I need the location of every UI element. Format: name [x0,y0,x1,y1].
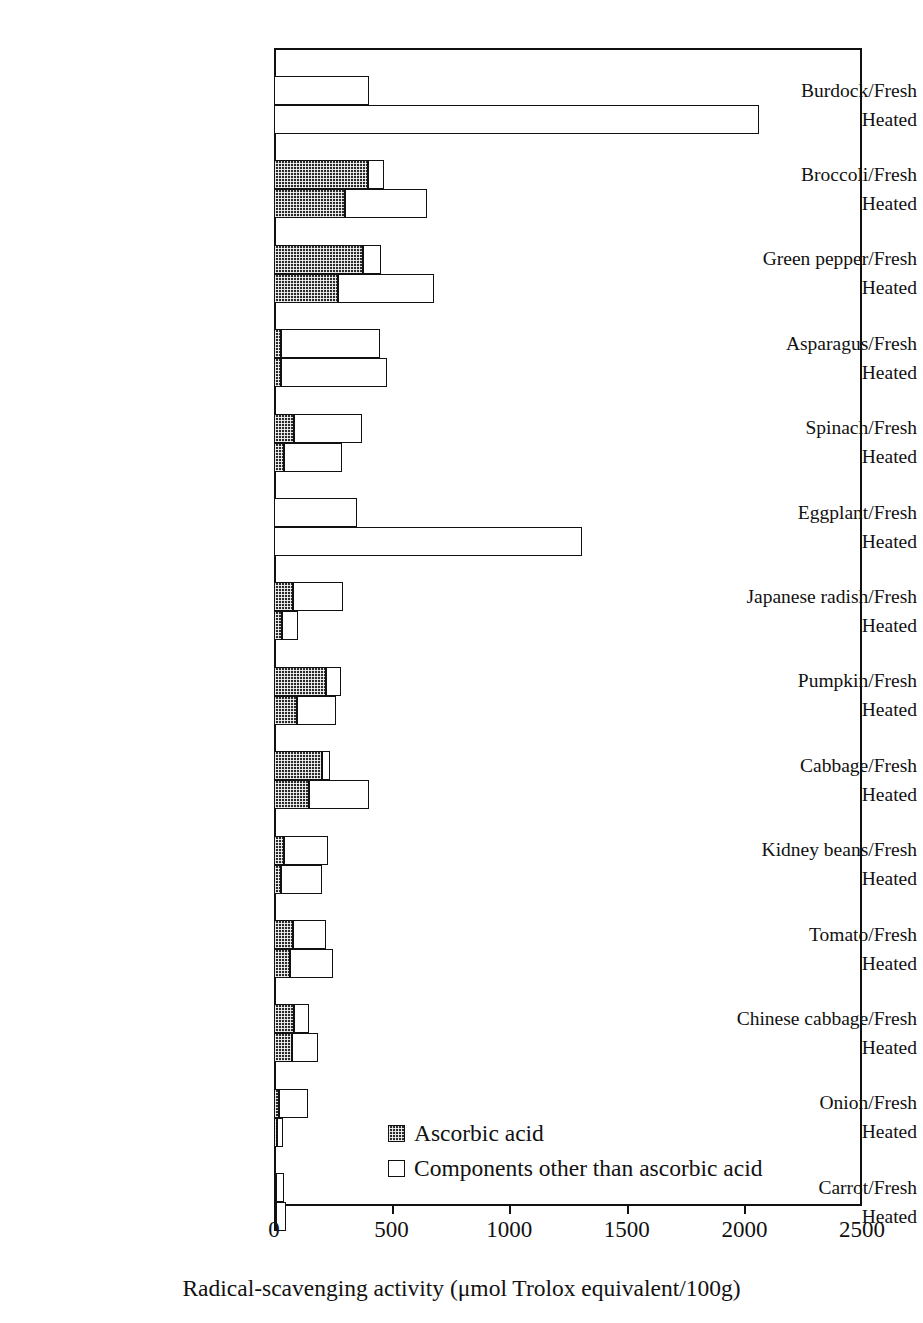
category-label-burdock-heated: Heated [658,110,923,130]
bar-segment-other [279,1089,308,1118]
bar-segment-ascorbic [274,1033,292,1062]
radical-scavenging-activity-chart: Burdock/FreshHeatedBroccoli/FreshHeatedG… [0,0,923,1323]
legend-item-other-components: Components other than ascorbic acid [388,1153,762,1184]
category-label-green-pepper-heated: Heated [658,278,923,298]
category-label-pumpkin-heated: Heated [658,700,923,720]
bar-segment-other [290,949,334,978]
bar-segment-other [274,498,357,527]
bar-segment-ascorbic [274,274,338,303]
bar-segment-other [368,160,384,189]
category-label-cabbage-fresh: Cabbage/Fresh [658,756,923,776]
category-label-asparagus-heated: Heated [658,363,923,383]
bar-segment-other [281,358,387,387]
x-axis-tick-2000 [744,1206,746,1214]
legend-item-ascorbic-acid: Ascorbic acid [388,1118,762,1149]
bar-segment-ascorbic [274,667,326,696]
x-axis-tick-label-1000: 1000 [486,1218,532,1241]
bar-segment-other [274,527,582,556]
category-label-tomato-heated: Heated [658,954,923,974]
legend-label-ascorbic: Ascorbic acid [414,1122,544,1146]
category-label-broccoli-heated: Heated [658,194,923,214]
category-label-broccoli-fresh: Broccoli/Fresh [658,165,923,185]
x-axis-tick-label-2000: 2000 [721,1218,767,1241]
x-axis-title: Radical-scavenging activity (μmol Trolox… [0,1277,923,1301]
bar-segment-ascorbic [274,836,284,865]
bar-segment-other [322,751,330,780]
bar-segment-other [326,667,341,696]
category-label-onion-fresh: Onion/Fresh [658,1093,923,1113]
x-axis-tick-label-2500: 2500 [839,1218,885,1241]
category-label-burdock-fresh: Burdock/Fresh [658,81,923,101]
bar-segment-other [276,1173,284,1202]
bar-segment-ascorbic [274,696,297,725]
bar-segment-ascorbic [274,780,309,809]
bar-segment-other [281,865,322,894]
bar-segment-other [338,274,434,303]
category-label-spinach-heated: Heated [658,447,923,467]
x-axis-tick-500 [392,1206,394,1214]
x-axis-tick-1000 [509,1206,511,1214]
bar-segment-ascorbic [274,443,284,472]
bar-segment-ascorbic [274,329,281,358]
legend-label-other: Components other than ascorbic acid [414,1157,762,1181]
category-label-japanese-radish-heated: Heated [658,616,923,636]
category-label-pumpkin-fresh: Pumpkin/Fresh [658,671,923,691]
bar-segment-other [294,1004,309,1033]
bar-segment-other [363,245,381,274]
bar-segment-ascorbic [274,245,363,274]
x-axis-tick-label-0: 0 [268,1218,280,1241]
bar-segment-ascorbic [274,358,281,387]
bar-segment-ascorbic [274,582,293,611]
bar-segment-ascorbic [274,611,282,640]
bar-segment-ascorbic [274,1004,294,1033]
bar-segment-ascorbic [274,920,293,949]
category-label-cabbage-heated: Heated [658,785,923,805]
category-label-kidney-beans-heated: Heated [658,869,923,889]
category-label-kidney-beans-fresh: Kidney beans/Fresh [658,840,923,860]
x-axis-tick-1500 [627,1206,629,1214]
bar-segment-ascorbic [274,160,368,189]
category-label-japanese-radish-fresh: Japanese radish/Fresh [658,587,923,607]
category-label-chinese-cabbage-fresh: Chinese cabbage/Fresh [658,1009,923,1029]
bar-segment-other [277,1118,284,1147]
legend-swatch-ascorbic-icon [388,1125,405,1142]
legend: Ascorbic acid Components other than asco… [388,1118,762,1188]
category-label-green-pepper-fresh: Green pepper/Fresh [658,249,923,269]
bar-segment-other [293,920,326,949]
bar-segment-other [294,414,362,443]
bar-segment-other [293,582,343,611]
category-label-tomato-fresh: Tomato/Fresh [658,925,923,945]
bar-segment-ascorbic [274,189,345,218]
bar-segment-ascorbic [274,865,281,894]
bar-segment-other [282,611,298,640]
bar-segment-ascorbic [274,751,322,780]
category-label-spinach-fresh: Spinach/Fresh [658,418,923,438]
bar-segment-ascorbic [274,414,294,443]
category-label-chinese-cabbage-heated: Heated [658,1038,923,1058]
x-axis-tick-label-500: 500 [374,1218,409,1241]
bar-segment-other [281,329,380,358]
bar-segment-other [297,696,336,725]
x-axis-tick-label-1500: 1500 [604,1218,650,1241]
legend-swatch-other-icon [388,1160,405,1177]
category-label-eggplant-fresh: Eggplant/Fresh [658,503,923,523]
bar-segment-other [345,189,427,218]
bar-segment-other [274,76,369,105]
category-label-eggplant-heated: Heated [658,532,923,552]
bar-segment-other [309,780,369,809]
bar-segment-ascorbic [274,949,290,978]
category-label-asparagus-fresh: Asparagus/Fresh [658,334,923,354]
bar-segment-other [292,1033,318,1062]
bar-segment-other [284,443,342,472]
bar-segment-other [284,836,328,865]
